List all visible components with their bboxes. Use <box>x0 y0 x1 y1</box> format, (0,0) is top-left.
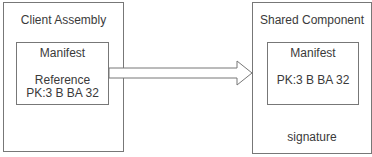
shared-signature: signature <box>252 130 372 144</box>
shared-public-key: PK:3 B BA 32 <box>267 73 359 87</box>
shared-manifest-title: Manifest <box>267 46 359 60</box>
shared-component-title: Shared Component <box>252 13 372 27</box>
